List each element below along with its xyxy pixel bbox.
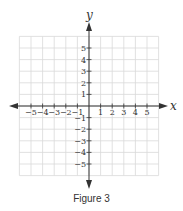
x-tick-label: 5 [144, 108, 149, 117]
x-tick-label: 4 [133, 108, 138, 117]
y-axis-up-arrow-icon [86, 22, 92, 31]
coordinate-grid: x y −5−4−3−2−112345 54321−1−2−3−4−5 [0, 0, 183, 211]
x-axis-label: x [170, 99, 177, 113]
coordinate-plane-figure: x y −5−4−3−2−112345 54321−1−2−3−4−5 Figu… [0, 0, 183, 211]
x-tick-labels: −5−4−3−2−112345 [25, 108, 149, 117]
x-axis-left-arrow-icon [9, 103, 18, 109]
x-tick-label: 3 [121, 108, 126, 117]
y-tick-label: −3 [74, 137, 86, 146]
x-tick-label: −3 [48, 108, 60, 117]
x-tick-label: −4 [37, 108, 49, 117]
x-axis-right-arrow-icon [159, 103, 168, 109]
y-axis-label: y [85, 8, 93, 22]
y-tick-label: 3 [81, 67, 86, 76]
y-tick-label: −2 [74, 125, 86, 134]
x-tick-label: 1 [98, 108, 103, 117]
y-tick-label: 2 [81, 79, 86, 88]
y-axis-down-arrow-icon [86, 180, 92, 189]
x-tick-label: −5 [25, 108, 37, 117]
y-tick-label: 5 [81, 44, 86, 53]
y-tick-label: −5 [74, 160, 86, 169]
y-tick-label: 4 [81, 56, 86, 65]
y-tick-label: −1 [74, 114, 86, 123]
figure-caption: Figure 3 [0, 193, 183, 204]
y-tick-label: 1 [81, 90, 86, 99]
y-tick-label: −4 [74, 148, 86, 157]
x-tick-label: −2 [60, 108, 72, 117]
x-tick-label: 2 [110, 108, 115, 117]
